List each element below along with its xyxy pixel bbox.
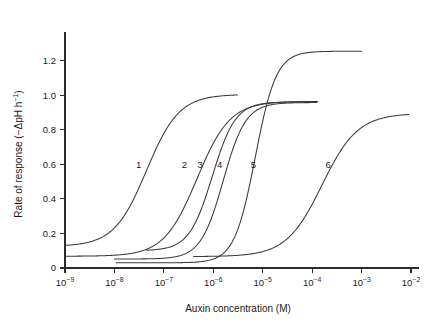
curve-label-1: 1 [136, 159, 141, 170]
auxin-dose-response-figure: 10−910−810−710−610−510−410−310−2 00.20.4… [0, 0, 429, 328]
y-tick-label-1: 0.2 [43, 228, 56, 239]
curve-1 [65, 95, 238, 245]
curve-label-2: 2 [182, 159, 187, 170]
y-tick-label-0: 0 [51, 262, 56, 273]
y-tick-label-2: 0.4 [43, 193, 56, 204]
curve-label-4: 4 [217, 159, 222, 170]
curve-series [65, 51, 409, 263]
axes [65, 32, 419, 268]
curve-label-6: 6 [325, 159, 330, 170]
y-axis-title: Rate of response (−ΔpH h−1) [12, 90, 24, 217]
curve-4 [114, 103, 317, 259]
x-tick-label-0: 10−9 [56, 276, 75, 288]
y-tick-label-3: 0.6 [43, 159, 56, 170]
x-tick-label-2: 10−7 [155, 276, 174, 288]
curve-label-5: 5 [251, 159, 256, 170]
x-tick-labels: 10−910−810−710−610−510−410−310−2 [56, 276, 421, 288]
y-tick-label-6: 1.2 [43, 55, 56, 66]
curve-5 [116, 51, 361, 263]
curve-2 [65, 101, 318, 256]
x-tick-label-3: 10−6 [204, 276, 223, 288]
axis-ticks [60, 61, 411, 273]
y-tick-label-5: 1.0 [43, 90, 56, 101]
dose-response-chart: 10−910−810−710−610−510−410−310−2 00.20.4… [0, 0, 429, 328]
x-tick-label-4: 10−5 [254, 276, 273, 288]
y-tick-label-4: 0.8 [43, 124, 56, 135]
x-tick-label-1: 10−8 [105, 276, 124, 288]
curve-number-labels: 123456 [136, 159, 331, 170]
x-tick-label-6: 10−3 [352, 276, 371, 288]
y-tick-labels: 00.20.40.60.81.01.2 [43, 55, 56, 273]
x-axis-title: Auxin concentration (M) [185, 303, 291, 314]
x-tick-label-5: 10−4 [303, 276, 322, 288]
x-tick-label-7: 10−2 [402, 276, 421, 288]
curve-label-3: 3 [197, 159, 202, 170]
